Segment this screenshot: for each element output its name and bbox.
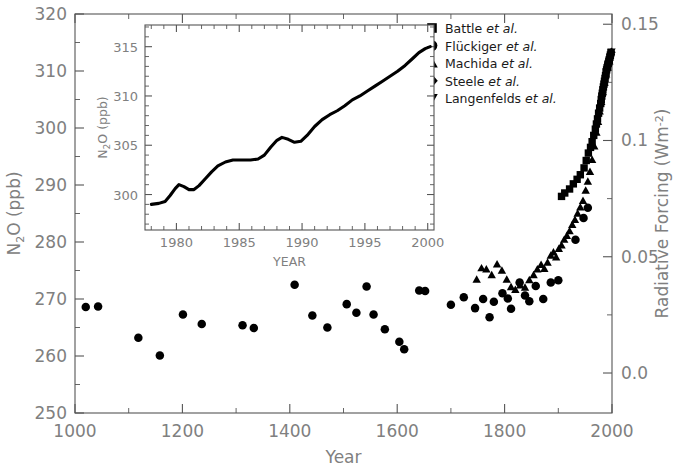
inset-y-tick-label: 300: [113, 188, 138, 203]
data-point: [342, 300, 351, 309]
y-tick-label: 260: [35, 346, 67, 366]
data-point: [81, 303, 90, 312]
figure-container: 100012001400160018002000Year250260270280…: [0, 0, 682, 476]
y-tick-label: 300: [35, 118, 67, 138]
x-axis-title: Year: [325, 447, 362, 467]
data-point: [421, 287, 430, 296]
right-tick-label: 0.15: [621, 14, 659, 34]
data-point: [583, 157, 590, 164]
legend-label: Battle et al.: [445, 21, 518, 36]
inset-y-tick-label: 310: [113, 89, 138, 104]
x-tick-label: 1600: [376, 421, 419, 441]
data-point: [400, 345, 409, 354]
data-point: [369, 310, 378, 319]
y-tick-label: 290: [35, 175, 67, 195]
data-point: [323, 323, 332, 332]
data-point: [525, 297, 534, 306]
x-tick-label: 1000: [53, 421, 96, 441]
data-point: [250, 324, 259, 333]
data-point: [197, 320, 206, 329]
legend-item-triangle-down[interactable]: Langenfelds et al.: [426, 91, 557, 106]
n2o-concentration-chart: 100012001400160018002000Year250260270280…: [0, 0, 682, 476]
data-point: [352, 308, 361, 317]
svg-text:N2O (ppb): N2O (ppb): [4, 171, 27, 255]
data-point: [485, 313, 494, 322]
y-tick-label: 310: [35, 61, 67, 81]
legend-label: Steele et al.: [445, 74, 520, 89]
data-point: [395, 337, 404, 346]
data-point: [507, 304, 516, 313]
x-tick-label: 1200: [161, 421, 204, 441]
data-point: [479, 295, 488, 304]
inset-x-tick-label: 1990: [286, 235, 319, 250]
data-point: [460, 293, 469, 302]
y-tick-label: 280: [35, 232, 67, 252]
data-point: [94, 302, 103, 311]
data-point: [580, 164, 587, 171]
inset-y-tick-label: 315: [113, 40, 138, 55]
y-tick-label: 320: [35, 4, 67, 24]
legend-label: Flückiger et al.: [445, 39, 538, 54]
data-point: [504, 294, 513, 303]
data-point: [584, 204, 593, 213]
inset-x-tick-label: 1995: [348, 235, 381, 250]
y-tick-label: 250: [35, 403, 67, 423]
data-point: [554, 276, 563, 285]
data-point: [471, 304, 480, 313]
data-point: [290, 280, 299, 289]
inset-x-axis-title: YEAR: [272, 254, 306, 269]
data-point: [571, 235, 580, 244]
legend-label: Machida et al.: [445, 56, 533, 71]
data-point: [362, 282, 371, 291]
y-axis-title: N2O (ppb): [4, 171, 27, 255]
data-point: [179, 310, 188, 319]
right-tick-label: 0.0: [621, 363, 648, 383]
x-tick-label: 1400: [268, 421, 311, 441]
data-point: [447, 300, 456, 309]
data-point: [156, 351, 165, 360]
data-point: [547, 278, 556, 287]
inset-x-tick-label: 1985: [223, 235, 256, 250]
legend-label: Langenfelds et al.: [445, 91, 557, 106]
data-point: [539, 295, 548, 304]
inset-background: [145, 25, 434, 230]
data-point: [490, 298, 499, 307]
inset-y-tick-label: 305: [113, 138, 138, 153]
right-axis-title: Radiative Forcing (Wm-2): [652, 109, 672, 319]
data-point: [381, 325, 390, 334]
inset-x-tick-label: 1980: [160, 235, 193, 250]
x-tick-label: 1800: [483, 421, 526, 441]
data-point: [134, 334, 143, 343]
inset-x-tick-label: 2000: [411, 235, 444, 250]
data-point: [238, 321, 247, 330]
x-tick-label: 2000: [590, 421, 633, 441]
data-point: [577, 171, 584, 178]
right-tick-label: 0.1: [621, 130, 648, 150]
y-tick-label: 270: [35, 289, 67, 309]
data-point: [308, 311, 317, 320]
svg-text:Radiative Forcing (Wm-2): Radiative Forcing (Wm-2): [652, 109, 672, 319]
